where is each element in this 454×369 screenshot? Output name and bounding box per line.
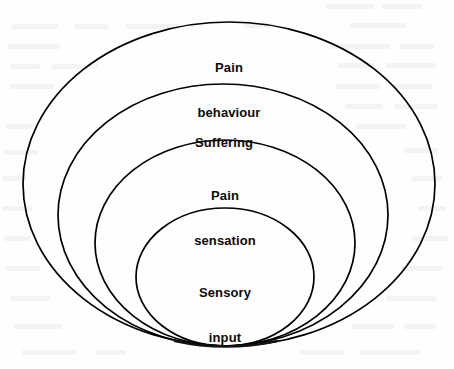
ring-label-sensory-input-line-1: Sensory <box>199 285 251 300</box>
ring-label-pain-behaviour-line-1: Pain <box>197 60 260 75</box>
figure-root: Pain behaviour Suffering Pain sensation … <box>0 0 454 369</box>
ring-label-sensory-input-line-2: input <box>199 330 251 345</box>
ring-label-pain-sensation-line-2: sensation <box>194 233 256 248</box>
ring-label-suffering-line-1: Suffering <box>195 135 253 150</box>
ring-label-pain-sensation-line-1: Pain <box>194 188 256 203</box>
ring-label-sensory-input: Sensory input <box>199 255 251 369</box>
